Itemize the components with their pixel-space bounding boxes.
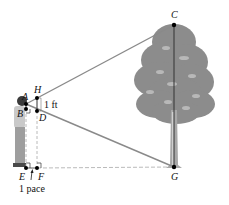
person-figure <box>13 96 27 167</box>
arrow-head-icon <box>31 169 34 173</box>
point-c <box>172 23 176 27</box>
point-g <box>172 165 176 169</box>
point-a <box>24 102 28 106</box>
label-b: B <box>17 108 23 119</box>
diagram-canvas: A H B D 1 ft E F 1 pace C G <box>0 0 229 205</box>
label-1ft: 1 ft <box>44 99 58 110</box>
label-d: D <box>38 112 47 123</box>
label-a: A <box>21 91 29 102</box>
point-f <box>35 166 39 170</box>
label-1-pace: 1 pace <box>19 183 45 194</box>
label-e: E <box>18 171 25 182</box>
label-g: G <box>171 171 178 182</box>
point-b <box>24 107 28 111</box>
label-h: H <box>33 84 42 95</box>
dashed-ground-line <box>37 167 174 168</box>
label-c: C <box>171 9 178 20</box>
point-e <box>24 166 28 170</box>
point-h <box>35 96 39 100</box>
label-f: F <box>37 171 45 182</box>
similar-triangles-tree-diagram: A H B D 1 ft E F 1 pace C G <box>0 0 229 205</box>
